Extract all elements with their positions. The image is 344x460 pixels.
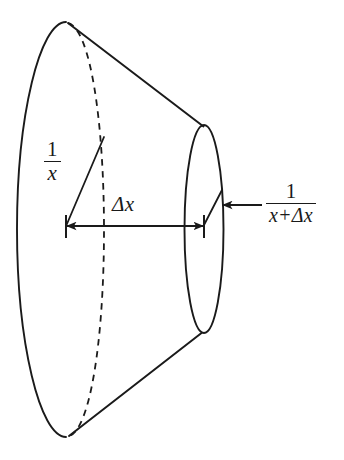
frustum-diagram-canvas <box>0 0 344 460</box>
label-radius-left-numerator: 1 <box>44 139 61 161</box>
slant-line-bottom <box>69 333 202 436</box>
label-radius-one-over-x-plus-delta-x: 1 x+Δx <box>266 181 316 226</box>
label-radius-one-over-x: 1 x <box>44 139 61 185</box>
label-axial-length-delta-x: Δx <box>112 192 135 217</box>
left-ellipse-front-arc <box>17 22 66 437</box>
label-radius-right-numerator: 1 <box>266 181 316 203</box>
slant-line-top <box>68 23 204 127</box>
radius-line-right <box>204 190 222 225</box>
figure-root: 1 x 1 x+Δx Δx <box>0 0 344 460</box>
left-ellipse-back-arc-dashed <box>68 23 104 436</box>
radius-line-left <box>67 137 105 225</box>
label-radius-left-denominator: x <box>44 162 61 184</box>
label-radius-right-denominator: x+Δx <box>266 204 316 225</box>
